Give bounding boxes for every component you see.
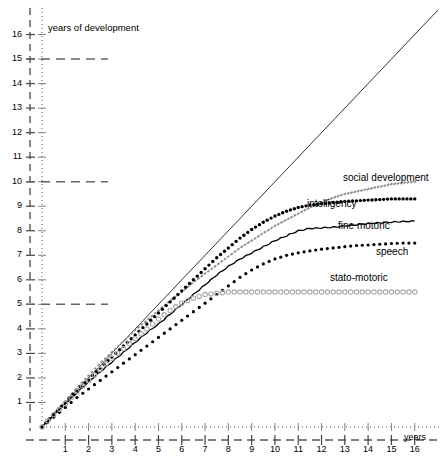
series-dash	[363, 188, 366, 191]
series-dot	[359, 199, 362, 202]
series-dot	[302, 250, 305, 253]
series-dash	[230, 252, 233, 255]
series-open-circle	[360, 290, 364, 294]
series-dash	[130, 332, 133, 335]
series-dot	[337, 246, 340, 249]
series-dot	[139, 349, 142, 352]
series-dot	[382, 198, 385, 201]
series-dot	[277, 213, 280, 216]
series-dot	[168, 300, 171, 303]
series-open-circle	[314, 290, 318, 294]
y-tick-label-10: 10	[6, 176, 22, 186]
series-open-circle	[290, 290, 294, 294]
series-open-circle	[209, 292, 213, 296]
series-dash	[346, 192, 349, 195]
series-dot	[184, 285, 187, 288]
series-open-circle	[244, 290, 248, 294]
series-dot	[366, 198, 369, 201]
series-dash	[283, 219, 286, 222]
series-open-circle	[162, 313, 166, 317]
series-open-circle	[249, 290, 253, 294]
series-dot	[401, 241, 404, 244]
series-dot	[192, 310, 195, 313]
series-dot	[285, 209, 288, 212]
series-dot	[203, 302, 206, 305]
series-open-circle	[226, 290, 230, 294]
series-dash	[253, 237, 256, 240]
series-dot	[180, 319, 183, 322]
series-open-circle	[267, 290, 271, 294]
series-dot	[281, 211, 284, 214]
series-dot	[93, 383, 96, 386]
series-dash	[353, 190, 356, 193]
x-tick-label-1: 1	[57, 444, 73, 454]
x-tick-label-2: 2	[81, 444, 97, 454]
series-dash	[343, 192, 346, 195]
series-dot	[370, 198, 373, 201]
series-dash	[220, 260, 223, 263]
series-open-circle	[372, 290, 376, 294]
series-dot	[407, 241, 410, 244]
series-open-circle	[191, 296, 195, 300]
series-dot	[215, 256, 218, 259]
x-tick-label-12: 12	[314, 444, 330, 454]
series-dot	[254, 225, 257, 228]
series-dash	[280, 221, 283, 224]
series-stato-motoric	[40, 290, 417, 429]
series-dot	[409, 197, 412, 200]
series-dash	[247, 241, 250, 244]
series-dot	[244, 272, 247, 275]
series-dash	[356, 190, 359, 193]
series-dash	[380, 185, 383, 188]
series-dot	[386, 197, 389, 200]
series-dot	[405, 197, 408, 200]
series-dot	[262, 220, 265, 223]
series-dash	[277, 223, 280, 226]
series-open-circle	[348, 290, 352, 294]
series-dot	[122, 362, 125, 365]
series-dot	[165, 304, 168, 307]
x-tick-label-13: 13	[337, 444, 353, 454]
series-dot	[151, 340, 154, 343]
series-dash	[153, 312, 156, 315]
series-dot	[413, 197, 416, 200]
series-dot	[326, 247, 329, 250]
series-open-circle	[343, 290, 347, 294]
series-dot	[219, 253, 222, 256]
x-tick-label-10: 10	[267, 444, 283, 454]
series-open-circle	[232, 290, 236, 294]
y-tick-label-4: 4	[6, 323, 22, 333]
series-open-circle	[407, 290, 411, 294]
series-open-circle	[273, 290, 277, 294]
series-intelligency	[40, 197, 416, 429]
series-dot	[291, 252, 294, 255]
series-dash	[263, 231, 266, 234]
series-label-speech: speech	[376, 246, 408, 257]
series-dot	[198, 306, 201, 309]
x-tick-label-14: 14	[360, 444, 376, 454]
series-dash	[207, 270, 210, 273]
series-open-circle	[133, 336, 137, 340]
series-dash	[287, 217, 290, 220]
series-dot	[128, 357, 131, 360]
series-dot	[343, 245, 346, 248]
series-dash	[383, 184, 386, 187]
y-tick-label-13: 13	[6, 102, 22, 112]
y-axis-title: years of development	[48, 22, 139, 33]
series-dot	[163, 332, 166, 335]
series-dash	[260, 233, 263, 236]
series-dash	[210, 267, 213, 270]
series-dot	[250, 268, 253, 271]
y-tick-label-2: 2	[6, 372, 22, 382]
series-dot	[367, 243, 370, 246]
x-tick-label-11: 11	[290, 444, 306, 454]
series-open-circle	[308, 290, 312, 294]
series-dot	[169, 327, 172, 330]
y-tick-label-16: 16	[6, 29, 22, 39]
series-dash	[360, 189, 363, 192]
series-dot	[246, 231, 249, 234]
series-dot	[262, 262, 265, 265]
series-open-circle	[279, 290, 283, 294]
series-dot	[87, 387, 90, 390]
series-dot	[145, 344, 148, 347]
